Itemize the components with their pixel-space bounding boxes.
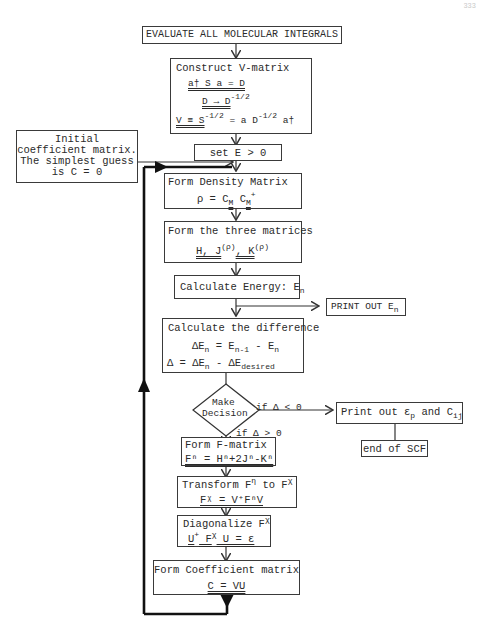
calculate-energy-box: Calculate Energy: En (174, 275, 300, 299)
construct-v-matrix-box: Construct V-matrix a† S a = D D → D-1/2 … (170, 58, 312, 134)
construct-v-eq2: D → D-1/2 (202, 96, 250, 108)
form-density-matrix-box: Form Density Matrix ρ = CM CM+ (164, 173, 302, 209)
print-results-label: Print out εp and Cij (341, 406, 463, 418)
end-of-scf-label: end of SCF (362, 443, 427, 455)
evaluate-label: EVALUATE ALL MOLECULAR INTEGRALS (143, 29, 341, 41)
form-f-label: Form F-matrix (185, 439, 267, 451)
form-f-matrix-box: Form F-matrix Fⁿ = Hⁿ+2Jⁿ-Kⁿ (181, 437, 276, 466)
end-of-scf-box: end of SCF (361, 440, 428, 457)
form-coefficient-matrix-box: Form Coefficient matrix C = VU (153, 560, 300, 595)
transform-eq: Fᵡ = V⁺FⁿV (200, 494, 263, 506)
diagonalize-eq: U+ Fχ U = ε (188, 533, 254, 545)
calculate-difference-box: Calculate the difference ΔEn = En-1 - En… (162, 318, 304, 373)
initial-guess-box: Initial coefficient matrix. The simplest… (16, 130, 138, 183)
evaluate-integrals-box: EVALUATE ALL MOLECULAR INTEGRALS (142, 26, 342, 44)
form-f-eq: Fⁿ = Hⁿ+2Jⁿ-Kⁿ (185, 453, 273, 465)
difference-eq1: ΔEn = En-1 - En (192, 340, 279, 352)
initial-guess-line4: is C = 0 (17, 166, 137, 178)
decision-line2: Decision (202, 408, 248, 420)
difference-eq2: Δ = ΔEn - ΔEdesired (167, 357, 275, 369)
energy-label: Calculate Energy: En (180, 281, 305, 293)
diagonalize-label: Diagonalize Fχ (183, 518, 270, 530)
density-eq: ρ = CM CM+ (197, 193, 256, 205)
edge-label-if-less: if Δ < 0 (256, 402, 302, 414)
three-matrices-label: Form the three matrices (168, 225, 313, 237)
print-results-box: Print out εp and Cij (336, 402, 463, 424)
diagonalize-box: Diagonalize Fχ U+ Fχ U = ε (177, 515, 271, 547)
print-energy-box: PRINT OUT En (326, 298, 406, 316)
density-label: Form Density Matrix (168, 176, 288, 188)
construct-v-eq3: V ≡ S-1/2 = a D-1/2 a† (176, 115, 294, 127)
coefficient-eq: C = VU (154, 580, 299, 592)
difference-label: Calculate the difference (168, 322, 319, 334)
construct-v-label: Construct V-matrix (176, 62, 289, 74)
print-energy-label: PRINT OUT En (331, 301, 399, 313)
transform-f-box: Transform Fη to Fχ Fᵡ = V⁺FⁿV (177, 476, 297, 508)
set-e-box: set E > 0 (194, 144, 282, 161)
form-three-matrices-box: Form the three matrices H, J(ρ), K(ρ) (164, 221, 302, 263)
coefficient-label: Form Coefficient matrix (154, 564, 299, 576)
transform-label: Transform Fη to Fχ (182, 479, 292, 491)
construct-v-eq1: a† S a = D (188, 78, 245, 90)
three-matrices-eq: H, J(ρ), K(ρ) (196, 245, 269, 257)
set-e-label: set E > 0 (195, 147, 281, 159)
